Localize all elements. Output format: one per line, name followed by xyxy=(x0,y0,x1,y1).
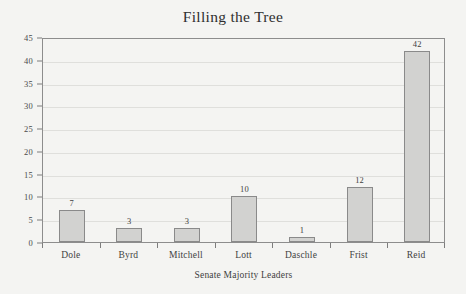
x-axis-title: Senate Majority Leaders xyxy=(42,270,445,280)
x-tick-mark xyxy=(330,243,331,248)
x-tick-mark xyxy=(272,243,273,248)
plot-area: 7331011242 xyxy=(42,38,445,243)
y-tick-label: 20 xyxy=(24,147,33,157)
y-tick-label: 35 xyxy=(24,79,33,89)
x-tick-label: Frist xyxy=(349,250,367,260)
bar-value-label: 10 xyxy=(240,184,249,194)
bar-value-label: 7 xyxy=(70,198,74,208)
bar[interactable] xyxy=(347,187,373,242)
y-tick-label: 30 xyxy=(24,101,33,111)
x-tick-label: Mitchell xyxy=(169,250,203,260)
y-tick-label: 15 xyxy=(24,170,33,180)
x-tick-mark xyxy=(444,243,445,248)
bar[interactable] xyxy=(289,237,315,242)
y-tick-label: 10 xyxy=(24,192,33,202)
bar-value-label: 3 xyxy=(127,216,131,226)
bar-value-label: 42 xyxy=(413,39,422,49)
y-tick-label: 5 xyxy=(29,215,33,225)
bar-slot: 1 xyxy=(273,39,331,242)
x-tick-mark xyxy=(387,243,388,248)
bar-chart: Filling the Tree 7331011242 051015202530… xyxy=(0,0,466,294)
bar-slot: 3 xyxy=(158,39,216,242)
y-tick-label: 45 xyxy=(24,33,33,43)
x-axis-tick-labels: DoleByrdMitchellLottDaschleFristReid xyxy=(42,250,445,266)
bar-slot: 7 xyxy=(43,39,101,242)
bar[interactable] xyxy=(404,51,430,242)
bar[interactable] xyxy=(116,228,142,242)
x-tick-mark xyxy=(157,243,158,248)
x-tick-mark xyxy=(215,243,216,248)
y-tick-mark xyxy=(37,83,42,84)
x-tick-label: Lott xyxy=(235,250,252,260)
bar[interactable] xyxy=(231,196,257,242)
bar-value-label: 12 xyxy=(355,175,364,185)
x-tick-label: Daschle xyxy=(285,250,317,260)
y-tick-mark xyxy=(37,220,42,221)
x-tick-label: Reid xyxy=(407,250,426,260)
bar-slot: 42 xyxy=(388,39,446,242)
y-tick-label: 25 xyxy=(24,124,33,134)
y-tick-mark xyxy=(37,129,42,130)
x-tick-mark xyxy=(100,243,101,248)
x-axis-tick-marks xyxy=(42,243,445,249)
y-tick-label: 40 xyxy=(24,56,33,66)
bar-value-label: 3 xyxy=(185,216,189,226)
chart-title: Filling the Tree xyxy=(0,8,466,26)
y-tick-mark xyxy=(37,38,42,39)
bar-slot: 10 xyxy=(216,39,274,242)
bar-value-label: 1 xyxy=(300,225,304,235)
y-tick-label: 0 xyxy=(29,238,33,248)
y-axis: 051015202530354045 xyxy=(0,38,42,243)
x-tick-label: Dole xyxy=(61,250,80,260)
bar-slot: 3 xyxy=(101,39,159,242)
y-tick-mark xyxy=(37,60,42,61)
bar-slot: 12 xyxy=(331,39,389,242)
y-tick-mark xyxy=(37,197,42,198)
x-tick-label: Byrd xyxy=(118,250,138,260)
y-tick-mark xyxy=(37,151,42,152)
x-tick-mark xyxy=(42,243,43,248)
y-tick-mark xyxy=(37,106,42,107)
y-tick-mark xyxy=(37,174,42,175)
bar[interactable] xyxy=(174,228,200,242)
bar[interactable] xyxy=(59,210,85,242)
